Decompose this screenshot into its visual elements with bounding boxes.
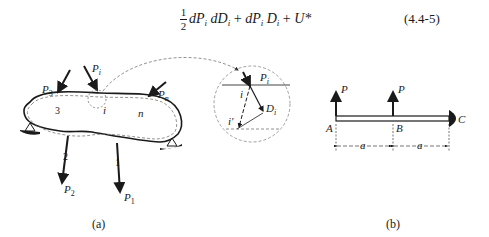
support-right-icon (160, 138, 182, 150)
label-pn: Pn (157, 88, 169, 103)
detail-load-arrow (243, 72, 250, 86)
support-left-icon (20, 123, 40, 135)
detail-label-i-prime: i' (228, 115, 234, 127)
label-p2: P2 (63, 183, 75, 198)
node-b: B (396, 122, 403, 134)
caption-a: (a) (92, 217, 105, 232)
node-a: A (325, 122, 333, 134)
dimension-a-1: a (360, 139, 366, 151)
detail-label-di: Di (265, 102, 276, 117)
detail-connector (103, 57, 238, 91)
beam-label-p-a: P (340, 83, 348, 95)
fixed-support-icon (449, 110, 456, 127)
label-pi: Pi (91, 62, 101, 77)
dimension-a-2: a (417, 139, 423, 151)
point-3: 3 (55, 105, 60, 116)
point-1: 1 (115, 157, 120, 168)
figure-canvas: P3 Pi Pn P2 P1 3 i n 2 1 Pi i i' Di P P … (0, 0, 489, 237)
displacement-arrow (250, 86, 263, 111)
label-p3: P3 (41, 83, 53, 98)
detail-label-i: i (240, 88, 243, 100)
detail-view (214, 66, 290, 142)
detail-label-pi: Pi (259, 71, 269, 86)
label-p1: P1 (123, 191, 135, 206)
beam-label-p-b: P (397, 83, 405, 95)
point-i: i (103, 104, 106, 116)
caption-b: (b) (386, 217, 400, 232)
point-n: n (138, 107, 144, 119)
node-c: C (458, 113, 466, 125)
load-arrow-p3 (58, 70, 70, 92)
point-2: 2 (63, 151, 68, 162)
